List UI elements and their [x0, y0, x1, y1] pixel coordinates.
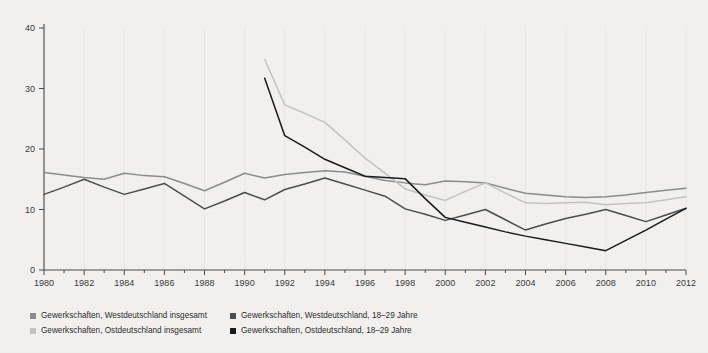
- x-axis-tick-label: 1982: [74, 278, 94, 288]
- x-axis-tick-label: 1992: [275, 278, 295, 288]
- chart-legend: Gewerkschaften, Westdeutschland insgesam…: [30, 308, 440, 338]
- x-axis-tick-label: 2002: [475, 278, 495, 288]
- x-axis-tick-label: 1980: [34, 278, 54, 288]
- legend-swatch-icon: [30, 328, 36, 334]
- legend-label: Gewerkschaften, Ostdeutschland insgesamt: [41, 323, 201, 338]
- x-axis-tick-label: 2006: [556, 278, 576, 288]
- legend-item-west-young[interactable]: Gewerkschaften, Westdeutschland, 18–29 J…: [230, 308, 440, 323]
- legend-label: Gewerkschaften, Westdeutschland, 18–29 J…: [241, 308, 417, 323]
- x-axis-tick-label: 2012: [676, 278, 696, 288]
- x-axis-tick-label: 2010: [636, 278, 656, 288]
- legend-item-east-total[interactable]: Gewerkschaften, Ostdeutschland insgesamt: [30, 323, 230, 338]
- x-axis-tick-label: 1994: [315, 278, 335, 288]
- legend-swatch-icon: [230, 328, 236, 334]
- legend-swatch-icon: [30, 313, 36, 319]
- x-axis-tick-label: 1988: [194, 278, 214, 288]
- y-axis-tick-label: 30: [25, 84, 35, 94]
- line-chart-plot: 0102030401980198219841986198819901992199…: [0, 0, 708, 353]
- legend-item-west-total[interactable]: Gewerkschaften, Westdeutschland insgesam…: [30, 308, 230, 323]
- legend-swatch-icon: [230, 313, 236, 319]
- legend-label: Gewerkschaften, Ostdeutschland, 18–29 Ja…: [241, 323, 412, 338]
- y-axis-tick-label: 10: [25, 205, 35, 215]
- x-axis-tick-label: 1998: [395, 278, 415, 288]
- x-axis-tick-label: 1986: [154, 278, 174, 288]
- x-axis-tick-label: 2004: [515, 278, 535, 288]
- chart-container: 0102030401980198219841986198819901992199…: [0, 0, 708, 353]
- x-axis-tick-label: 2008: [596, 278, 616, 288]
- y-axis-tick-label: 0: [30, 265, 35, 275]
- legend-item-east-young[interactable]: Gewerkschaften, Ostdeutschland, 18–29 Ja…: [230, 323, 440, 338]
- x-axis-tick-label: 1990: [235, 278, 255, 288]
- series-line-3: [265, 78, 686, 250]
- y-axis-tick-label: 20: [25, 144, 35, 154]
- x-axis-tick-label: 2000: [435, 278, 455, 288]
- x-axis-tick-label: 1984: [114, 278, 134, 288]
- y-axis-tick-label: 40: [25, 23, 35, 33]
- x-axis-tick-label: 1996: [355, 278, 375, 288]
- legend-label: Gewerkschaften, Westdeutschland insgesam…: [41, 308, 207, 323]
